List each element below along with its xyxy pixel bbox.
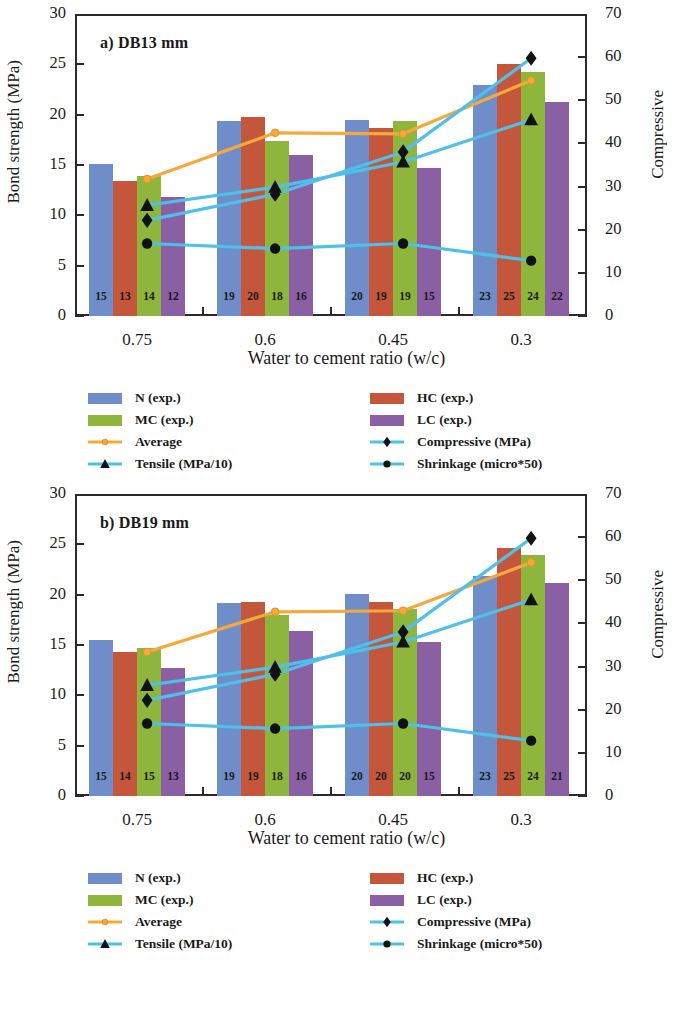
legend-label: Compressive (MPa) <box>417 434 531 450</box>
chart-panel-a: Bond strength (MPa) Compressive 30252015… <box>0 0 693 480</box>
x-tick-label: 0.45 <box>358 330 428 350</box>
x-tick-label: 0.45 <box>358 810 428 830</box>
legend-item[interactable]: Average <box>88 914 182 930</box>
x-tick-label: 0.3 <box>486 810 556 830</box>
tensile-line-marker <box>88 457 122 471</box>
legend-item[interactable]: Average <box>88 434 182 450</box>
legend-label: MC (exp.) <box>135 412 193 428</box>
legend-b: N (exp.)HC (exp.)MC (exp.)LC (exp.)Avera… <box>0 868 693 960</box>
legend-item[interactable]: N (exp.) <box>88 390 181 406</box>
red-swatch <box>370 873 404 884</box>
legend-item[interactable]: Shrinkage (micro*50) <box>370 456 542 472</box>
legend-label: Tensile (MPa/10) <box>135 936 232 952</box>
green-swatch <box>88 415 122 426</box>
legend-label: Shrinkage (micro*50) <box>417 936 542 952</box>
legend-label: N (exp.) <box>135 390 181 406</box>
red-swatch <box>370 393 404 404</box>
x-axis-label-b: Water to cement ratio (w/c) <box>0 828 693 849</box>
x-tick-label: 0.75 <box>102 330 172 350</box>
legend-item[interactable]: Shrinkage (micro*50) <box>370 936 542 952</box>
legend-label: Average <box>135 914 182 930</box>
legend-item[interactable]: Compressive (MPa) <box>370 914 531 930</box>
legend-item[interactable]: HC (exp.) <box>370 870 473 886</box>
plot-area-a: Bond strength (MPa) Compressive 30252015… <box>0 0 693 330</box>
legend-item[interactable]: Tensile (MPa/10) <box>88 456 232 472</box>
legend-label: N (exp.) <box>135 870 181 886</box>
legend-item[interactable]: Compressive (MPa) <box>370 434 531 450</box>
legend-label: Average <box>135 434 182 450</box>
legend-item[interactable]: MC (exp.) <box>88 412 193 428</box>
chart-panel-b: Bond strength (MPa) Compressive 30252015… <box>0 480 693 960</box>
legend-item[interactable]: LC (exp.) <box>370 412 472 428</box>
legend-label: LC (exp.) <box>417 892 472 908</box>
legend-label: Tensile (MPa/10) <box>135 456 232 472</box>
blue-swatch <box>88 393 122 404</box>
line-overlay-a <box>0 0 693 330</box>
average-line-marker <box>88 435 122 449</box>
plot-area-b: Bond strength (MPa) Compressive 30252015… <box>0 480 693 810</box>
shrinkage-line-marker <box>370 457 404 471</box>
legend-item[interactable]: LC (exp.) <box>370 892 472 908</box>
purple-swatch <box>370 415 404 426</box>
legend-label: HC (exp.) <box>417 390 473 406</box>
line-overlay-b <box>0 480 693 810</box>
legend-item[interactable]: N (exp.) <box>88 870 181 886</box>
tensile-line-marker <box>88 937 122 951</box>
legend-item[interactable]: Tensile (MPa/10) <box>88 936 232 952</box>
average-line-marker <box>88 915 122 929</box>
legend-label: Shrinkage (micro*50) <box>417 456 542 472</box>
legend-item[interactable]: MC (exp.) <box>88 892 193 908</box>
blue-swatch <box>88 873 122 884</box>
legend-label: Compressive (MPa) <box>417 914 531 930</box>
legend-item[interactable]: HC (exp.) <box>370 390 473 406</box>
legend-label: LC (exp.) <box>417 412 472 428</box>
figure-root: Bond strength (MPa) Compressive 30252015… <box>0 0 693 1009</box>
x-tick-label: 0.6 <box>230 330 300 350</box>
purple-swatch <box>370 895 404 906</box>
legend-label: MC (exp.) <box>135 892 193 908</box>
x-tick-label: 0.3 <box>486 330 556 350</box>
green-swatch <box>88 895 122 906</box>
compressive-line-marker <box>370 435 404 449</box>
compressive-line-marker <box>370 915 404 929</box>
legend-a: N (exp.)HC (exp.)MC (exp.)LC (exp.)Avera… <box>0 388 693 480</box>
shrinkage-line-marker <box>370 937 404 951</box>
x-tick-label: 0.75 <box>102 810 172 830</box>
x-axis-label-a: Water to cement ratio (w/c) <box>0 348 693 369</box>
legend-label: HC (exp.) <box>417 870 473 886</box>
x-tick-label: 0.6 <box>230 810 300 830</box>
